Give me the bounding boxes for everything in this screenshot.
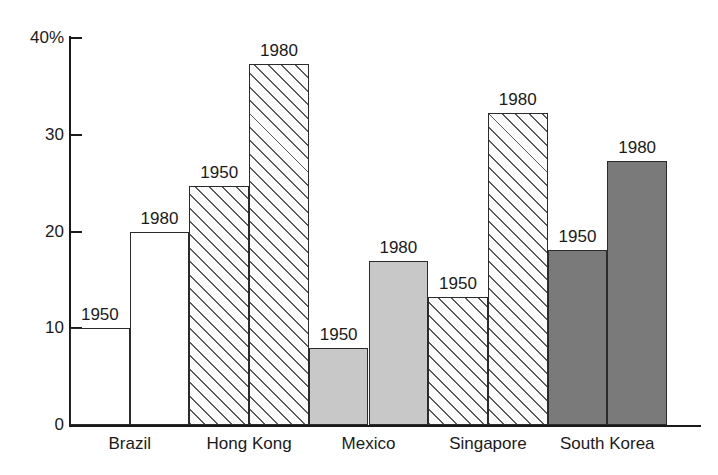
bar-value-label: 1950: [422, 275, 494, 293]
bar-value-label: 1950: [183, 164, 255, 182]
bar-hong-kong-1950: [189, 186, 249, 425]
bar-value-label: 1980: [482, 91, 554, 109]
bar-singapore-1950: [428, 297, 488, 425]
bar-south-korea-1980: [607, 161, 667, 425]
bar-chart: 40%3020100 19501980195019801950198019501…: [0, 0, 718, 475]
bar-brazil-1950: [70, 328, 130, 425]
bar-mexico-1950: [309, 348, 369, 425]
bar-value-label: 1980: [601, 139, 673, 157]
bar-value-label: 1980: [363, 239, 435, 257]
bar-singapore-1980: [488, 113, 548, 425]
bar-value-label: 1950: [303, 326, 375, 344]
bar-value-label: 1980: [124, 210, 196, 228]
bar-mexico-1980: [369, 261, 429, 425]
bars-layer: 1950198019501980195019801950198019501980: [0, 0, 718, 475]
bar-south-korea-1950: [548, 250, 608, 425]
bar-value-label: 1980: [243, 42, 315, 60]
category-label-south-korea: South Korea: [534, 434, 681, 454]
bar-value-label: 1950: [64, 306, 136, 324]
bar-brazil-1980: [130, 232, 190, 426]
bar-value-label: 1950: [542, 228, 614, 246]
bar-hong-kong-1980: [249, 64, 309, 425]
